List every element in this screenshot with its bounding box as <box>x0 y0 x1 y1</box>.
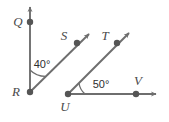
angle-label-TUV: 50° <box>93 78 110 90</box>
geometry-figure: Q R S T U V 40° 50° <box>0 0 169 122</box>
angle-arc-TUV <box>79 83 85 94</box>
point-U-dot <box>65 91 71 97</box>
point-Q-dot <box>27 19 33 25</box>
geometry-canvas: Q R S T U V 40° 50° <box>0 0 169 122</box>
point-T-dot <box>114 40 120 46</box>
point-label-R: R <box>11 84 20 99</box>
point-label-U: U <box>60 99 71 114</box>
point-label-V: V <box>134 73 144 88</box>
angle-label-QRS: 40° <box>34 58 51 70</box>
point-S-dot <box>74 40 80 46</box>
point-label-Q: Q <box>13 14 23 29</box>
point-label-S: S <box>61 28 68 43</box>
point-label-T: T <box>101 28 109 43</box>
point-V-dot <box>133 91 139 97</box>
angle-arc-QRS <box>30 70 46 76</box>
point-R-dot <box>27 89 33 95</box>
